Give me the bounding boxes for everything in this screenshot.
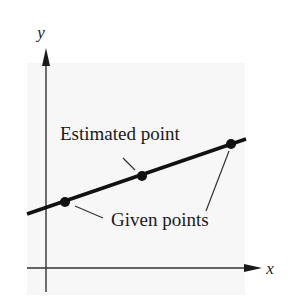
diagram-canvas: y x Estimated point Given points <box>0 0 288 308</box>
estimated-point-label: Estimated point <box>60 123 181 144</box>
estimated-point <box>137 171 147 181</box>
panel-background <box>27 63 245 295</box>
given-points-label: Given points <box>111 209 209 230</box>
y-axis-arrow-icon <box>42 48 50 66</box>
x-axis-label: x <box>265 259 274 278</box>
x-axis-arrow-icon <box>244 264 262 272</box>
y-axis-label: y <box>35 23 45 42</box>
given-point-left <box>60 197 70 207</box>
given-point-right <box>226 139 236 149</box>
